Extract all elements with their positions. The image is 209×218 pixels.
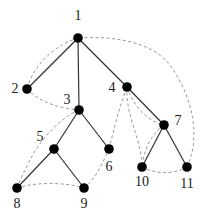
dashed-edge-6-4 [109,87,127,149]
dashed-edge-8-9 [17,184,84,189]
node-label-10: 10 [135,174,149,189]
tree-diagram: 1234567891011 [0,0,209,218]
tree-edge-4-7 [127,87,164,125]
node-label-1: 1 [75,8,82,23]
node-1 [73,33,83,43]
node-label-8: 8 [14,196,21,211]
node-3 [74,105,84,115]
node-label-2: 2 [12,81,19,96]
tree-edge-5-8 [17,149,54,188]
tree-edge-1-4 [78,38,127,87]
tree-edge-3-6 [79,110,109,149]
node-2 [22,84,32,94]
dashed-edge-3-8 [17,110,79,188]
dashed-edge-10-11 [142,167,187,173]
node-6 [104,144,114,154]
tree-edges [17,38,187,188]
node-label-4: 4 [109,80,116,95]
node-9 [79,183,89,193]
node-labels: 1234567891011 [12,8,194,211]
dashed-edge-4-10 [127,87,142,167]
node-label-9: 9 [81,196,88,211]
dashed-edge-2-3 [27,89,79,110]
node-4 [122,82,132,92]
tree-edge-7-10 [142,125,164,167]
node-7 [159,120,169,130]
tree-edge-7-11 [164,125,187,167]
node-8 [12,183,22,193]
tree-edge-5-9 [54,149,84,188]
node-11 [182,162,192,172]
node-label-7: 7 [175,113,182,128]
tree-edge-1-2 [27,38,78,89]
tree-nodes [12,33,192,193]
node-label-3: 3 [64,92,71,107]
node-label-5: 5 [37,129,44,144]
node-label-11: 11 [180,176,193,191]
tree-edge-3-5 [54,110,79,149]
tree-edge-1-3 [78,38,79,110]
node-label-6: 6 [106,159,113,174]
node-5 [49,144,59,154]
node-10 [137,162,147,172]
